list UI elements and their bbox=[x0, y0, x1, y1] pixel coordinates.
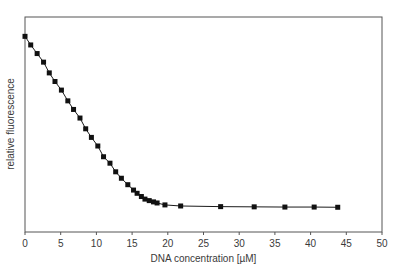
data-point-marker bbox=[282, 205, 287, 210]
x-tick-label: 20 bbox=[162, 238, 174, 249]
data-point-marker bbox=[52, 79, 57, 84]
x-tick-label: 30 bbox=[234, 238, 246, 249]
x-tick-label: 25 bbox=[198, 238, 210, 249]
x-axis-label: DNA concentration [µM] bbox=[25, 253, 382, 264]
data-point-marker bbox=[47, 70, 52, 75]
chart-canvas: 05101520253035404550 bbox=[0, 0, 398, 276]
data-point-marker bbox=[95, 144, 100, 149]
data-point-marker bbox=[312, 205, 317, 210]
data-point-marker bbox=[135, 191, 140, 196]
data-point-marker bbox=[142, 197, 147, 202]
data-point-marker bbox=[155, 200, 160, 205]
data-point-marker bbox=[125, 182, 130, 187]
data-point-marker bbox=[218, 204, 223, 209]
data-point-marker bbox=[59, 88, 64, 93]
data-point-marker bbox=[41, 60, 46, 65]
data-point-marker bbox=[147, 198, 152, 203]
data-point-marker bbox=[107, 161, 112, 166]
data-point-marker bbox=[162, 202, 167, 207]
x-tick-label: 15 bbox=[127, 238, 139, 249]
data-point-marker bbox=[101, 154, 106, 159]
series-line bbox=[25, 36, 338, 207]
data-point-marker bbox=[23, 34, 28, 39]
y-axis-label: relative fluorescence bbox=[5, 78, 16, 170]
data-point-marker bbox=[28, 42, 33, 47]
data-point-marker bbox=[65, 98, 70, 103]
data-point-marker bbox=[335, 205, 340, 210]
chart-figure: 05101520253035404550 relative fluorescen… bbox=[0, 0, 398, 276]
data-point-marker bbox=[71, 107, 76, 112]
x-tick-label: 35 bbox=[269, 238, 281, 249]
x-tick-label: 50 bbox=[376, 238, 388, 249]
x-tick-label: 40 bbox=[305, 238, 317, 249]
x-tick-label: 10 bbox=[91, 238, 103, 249]
data-point-marker bbox=[89, 135, 94, 140]
data-point-marker bbox=[119, 176, 124, 181]
plot-border bbox=[25, 17, 382, 232]
data-point-marker bbox=[83, 126, 88, 131]
data-point-marker bbox=[35, 51, 40, 56]
data-point-marker bbox=[178, 203, 183, 208]
x-tick-label: 0 bbox=[22, 238, 28, 249]
data-point-marker bbox=[252, 204, 257, 209]
data-point-marker bbox=[77, 116, 82, 121]
x-tick-label: 5 bbox=[58, 238, 64, 249]
x-tick-label: 45 bbox=[341, 238, 353, 249]
data-point-marker bbox=[113, 169, 118, 174]
